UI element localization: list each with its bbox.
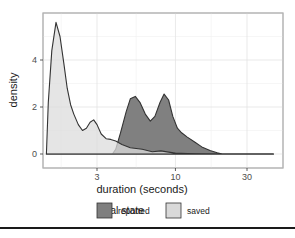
legend-label-reported: reported	[118, 206, 150, 216]
legend-label-saved: saved	[187, 206, 210, 216]
y-tick-label: 0	[32, 149, 37, 159]
plot-panel	[43, 13, 283, 168]
x-axis-title: duration (seconds)	[96, 183, 187, 195]
y-tick-label: 2	[32, 102, 37, 112]
y-axis-title: density	[7, 72, 19, 107]
x-tick-label: 3	[94, 172, 99, 182]
legend-swatch-saved	[166, 203, 181, 218]
legend-swatch-reported	[97, 203, 112, 218]
y-tick-label: 4	[32, 55, 37, 65]
legend: final state reported saved	[97, 203, 210, 218]
x-tick-label: 10	[170, 172, 180, 182]
density-chart: 024 31030 duration (seconds) density fin…	[0, 0, 295, 238]
x-axis: 31030	[94, 168, 252, 182]
bottom-divider	[0, 227, 295, 229]
y-axis: 024	[32, 55, 43, 159]
x-tick-label: 30	[242, 172, 252, 182]
